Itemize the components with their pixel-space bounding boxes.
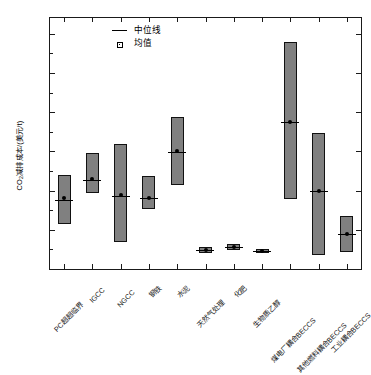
y-axis-tick xyxy=(50,151,55,152)
y-axis-label: CO2减排成本/(美元/t) xyxy=(13,76,24,236)
mean-square-icon xyxy=(112,37,127,50)
x-axis-tick xyxy=(262,264,263,269)
legend-label-mean: 均值 xyxy=(134,37,152,50)
x-axis-tick-top xyxy=(262,18,263,22)
x-axis-tick-label: IGCC xyxy=(88,286,107,305)
y-axis-tick-right xyxy=(356,34,361,35)
x-axis-tick-top xyxy=(64,18,65,22)
legend-label-median: 中位线 xyxy=(134,24,161,37)
mean-marker-钢铁 xyxy=(147,196,151,200)
x-axis-tick xyxy=(234,264,235,269)
y-axis-tick xyxy=(50,191,55,192)
box-其他燃料耦合BECCS xyxy=(312,133,325,255)
y-axis-tick xyxy=(50,230,55,231)
y-axis-minor-tick xyxy=(50,53,53,54)
median-line-PC超超临界 xyxy=(55,200,73,201)
mean-marker-化肥 xyxy=(232,245,236,249)
y-axis-tick-right xyxy=(356,191,361,192)
y-axis-minor-tick xyxy=(50,210,53,211)
mean-marker-其他燃料耦合BECCS xyxy=(317,189,321,193)
y-axis-minor-tick xyxy=(50,132,53,133)
x-axis-tick xyxy=(149,264,150,269)
mean-marker-工业耦合BECCS xyxy=(345,232,349,236)
y-axis-label-prefix: CO xyxy=(15,179,24,191)
x-axis-tick-top xyxy=(177,18,178,22)
x-axis-tick-label: PC超超临界 xyxy=(51,300,85,334)
x-axis-tick-top xyxy=(121,18,122,22)
y-axis-label-subscript: 2 xyxy=(18,176,24,179)
x-axis-tick-label: NGCC xyxy=(115,288,136,309)
legend-item-mean: 均值 xyxy=(112,37,161,50)
x-axis-tick xyxy=(177,264,178,269)
box-IGCC xyxy=(86,153,99,193)
mean-marker-煤电厂耦合BECCS xyxy=(288,120,292,124)
x-axis-tick xyxy=(290,264,291,269)
x-axis-tick xyxy=(319,264,320,269)
y-axis-tick-right xyxy=(356,151,361,152)
y-axis-tick-right xyxy=(356,73,361,74)
y-axis-minor-tick xyxy=(50,249,53,250)
median-line-icon xyxy=(112,30,127,31)
x-axis-tick xyxy=(347,264,348,269)
y-axis-minor-tick xyxy=(50,171,53,172)
y-axis-minor-tick xyxy=(50,93,53,94)
x-axis-tick-label: 天然气处理 xyxy=(194,298,226,330)
mean-marker-天然气处理 xyxy=(204,248,208,252)
legend-item-median: 中位线 xyxy=(112,24,161,37)
legend: 中位线 均值 xyxy=(112,24,161,50)
x-axis-tick-label: 水泥 xyxy=(174,283,191,300)
x-axis-tick-label: 钢铁 xyxy=(146,283,163,300)
x-axis-tick xyxy=(64,264,65,269)
x-axis-tick-top xyxy=(92,18,93,22)
x-axis-tick xyxy=(121,264,122,269)
x-axis-tick-top xyxy=(319,18,320,22)
mean-marker-生物质乙醇 xyxy=(260,249,264,253)
plot-area: 中位线 均值 xyxy=(49,17,362,270)
x-axis-tick xyxy=(92,264,93,269)
y-axis-tick xyxy=(50,112,55,113)
y-axis-label-suffix: 减排成本/(美元/t) xyxy=(15,121,24,176)
y-axis-tick xyxy=(50,34,55,35)
x-axis-tick-top xyxy=(347,18,348,22)
y-axis-tick xyxy=(50,73,55,74)
x-axis-tick-label: 生物质乙醇 xyxy=(251,298,283,330)
box-钢铁 xyxy=(142,176,155,208)
x-axis-tick-label: 化肥 xyxy=(231,283,248,300)
y-axis-tick xyxy=(50,269,55,270)
plot-inner xyxy=(50,18,361,269)
y-axis-tick-right xyxy=(356,112,361,113)
x-axis-tick-top xyxy=(206,18,207,22)
y-axis-tick-right xyxy=(356,230,361,231)
x-axis-tick-top xyxy=(290,18,291,22)
x-axis-tick-top xyxy=(234,18,235,22)
x-axis-tick-top xyxy=(149,18,150,22)
x-axis-tick xyxy=(206,264,207,269)
mean-marker-NGCC xyxy=(119,193,123,197)
y-axis-tick-right xyxy=(356,269,361,270)
